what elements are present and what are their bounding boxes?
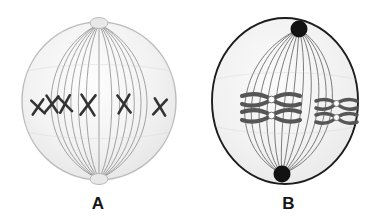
centromere-b-left-upper [268, 96, 275, 103]
cell-a-pole-top [90, 18, 108, 29]
panel-a: A [0, 0, 196, 221]
cell-b-pole-bottom [274, 166, 291, 183]
figure-root: A [0, 0, 381, 221]
panel-a-label: A [0, 194, 196, 214]
cell-b-pole-top [291, 21, 308, 38]
cell-b-illustration [196, 0, 381, 221]
panel-b: B [196, 0, 381, 221]
panel-b-label: B [196, 194, 381, 214]
centromere-b-right-upper [334, 101, 340, 107]
cell-a-pole-bottom [90, 174, 108, 185]
centromere-b-right-lower [334, 115, 340, 121]
centromere-b-left-lower [268, 112, 275, 119]
cell-a-illustration [0, 0, 196, 221]
